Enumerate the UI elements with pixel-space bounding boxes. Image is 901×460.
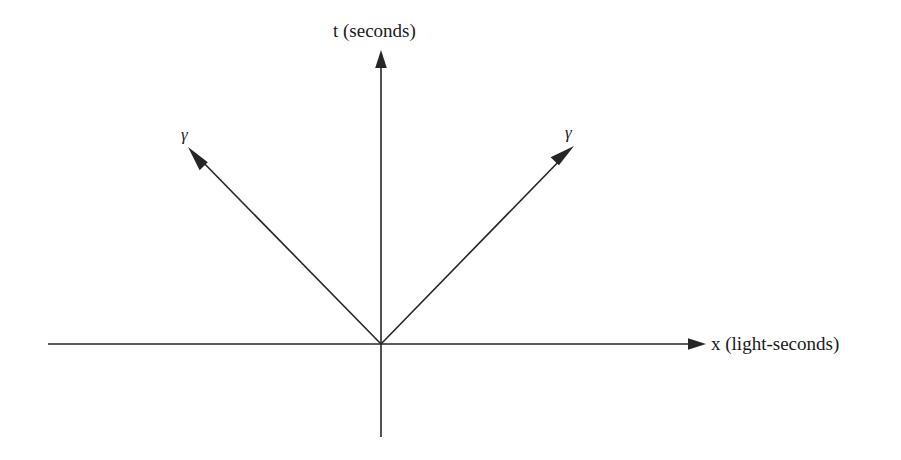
x-axis-arrowhead <box>688 338 706 350</box>
t-axis-arrowhead <box>375 50 387 68</box>
diagram-canvas <box>0 0 901 460</box>
gamma-right-ray-line <box>381 156 565 345</box>
x-axis-label: x (light-seconds) <box>711 334 839 353</box>
spacetime-diagram-figure: t (seconds) x (light-seconds) γ γ <box>0 0 901 460</box>
gamma-right-arrowhead <box>551 146 574 165</box>
gamma-left-label: γ <box>181 126 188 143</box>
gamma-right-label: γ <box>565 124 572 141</box>
gamma-left-arrowhead <box>188 147 208 170</box>
t-axis-label: t (seconds) <box>333 21 416 40</box>
gamma-left-ray-line <box>198 157 382 345</box>
